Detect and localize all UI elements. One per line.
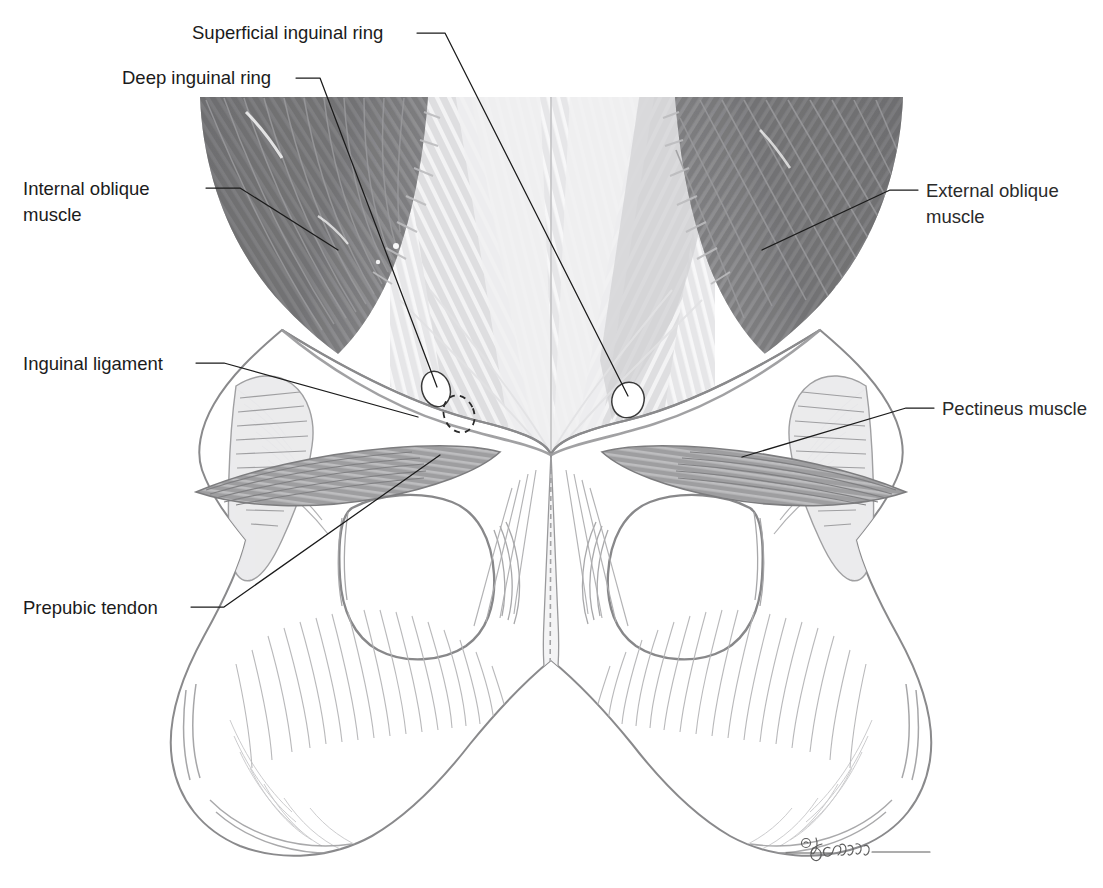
label-external-oblique-muscle-line1: External oblique [926,180,1059,201]
label-external-oblique-muscle-line2: muscle [926,206,985,227]
label-inguinal-ligament: Inguinal ligament [23,353,163,374]
label-deep-inguinal-ring: Deep inguinal ring [122,67,271,88]
label-superficial-inguinal-ring: Superficial inguinal ring [192,22,383,43]
label-prepubic-tendon: Prepubic tendon [23,597,158,618]
anatomical-figure: Superficial inguinal ring Deep inguinal … [0,0,1103,888]
anatomy-illustration-canvas: Superficial inguinal ring Deep inguinal … [0,0,1103,888]
label-pectineus-muscle: Pectineus muscle [942,398,1087,419]
label-internal-oblique-muscle-line1: Internal oblique [23,178,150,199]
label-internal-oblique-muscle-line2: muscle [23,204,82,225]
